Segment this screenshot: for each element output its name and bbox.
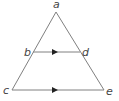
- parallel-arrow-icon-bd: [52, 49, 58, 55]
- label-c: c: [3, 84, 9, 97]
- parallel-arrow-icon-ce: [52, 87, 58, 93]
- triangle-diagram: a b d c e: [0, 0, 119, 101]
- label-a: a: [53, 0, 60, 11]
- label-e: e: [106, 85, 113, 98]
- segment-ac: [12, 12, 56, 90]
- segment-ae: [56, 12, 104, 90]
- label-b: b: [24, 46, 31, 59]
- label-d: d: [82, 46, 90, 59]
